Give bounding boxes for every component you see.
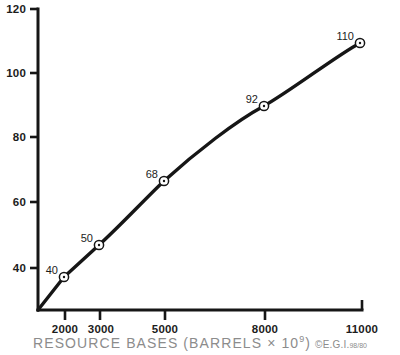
y-tick-label-100: 100 bbox=[6, 67, 26, 79]
data-point-110: 110 bbox=[336, 30, 364, 48]
credit-name: E.G.I. bbox=[323, 339, 350, 350]
data-point-label-110: 110 bbox=[336, 30, 354, 42]
x-axis-caption-close: ) bbox=[305, 335, 311, 351]
y-tick-label-60: 60 bbox=[13, 196, 26, 208]
data-point-50: 50 bbox=[81, 232, 104, 250]
data-series-line bbox=[38, 43, 360, 310]
data-point-label-92: 92 bbox=[246, 93, 258, 105]
line-chart-plot: 120 100 80 60 40 2000 3000 5000 8000 110… bbox=[0, 0, 400, 355]
y-tick-label-120: 120 bbox=[6, 3, 26, 15]
data-point-label-50: 50 bbox=[81, 232, 93, 244]
data-point-label-40: 40 bbox=[46, 264, 58, 276]
data-point-68: 68 bbox=[146, 168, 169, 186]
credit-date: 98/80 bbox=[349, 342, 367, 349]
data-point-label-68: 68 bbox=[146, 168, 158, 180]
x-axis-caption: RESOURCE BASES (BARRELS × 109)©E.G.I.98/… bbox=[0, 334, 400, 351]
credit-block: ©E.G.I.98/80 bbox=[315, 339, 367, 350]
x-axis-caption-main: RESOURCE BASES (BARRELS × 10 bbox=[33, 335, 299, 351]
chart-figure: 120 100 80 60 40 2000 3000 5000 8000 110… bbox=[0, 0, 400, 355]
y-tick-label-80: 80 bbox=[13, 131, 26, 143]
copyright-icon: © bbox=[315, 339, 323, 350]
y-tick-label-40: 40 bbox=[13, 262, 26, 274]
data-point-40: 40 bbox=[46, 264, 69, 282]
